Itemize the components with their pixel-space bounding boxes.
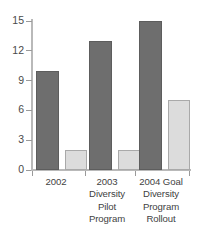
- y-axis-tick-label: 0: [0, 164, 24, 174]
- category-label-1: 2003DiversityPilotProgram: [79, 176, 135, 226]
- y-axis-tick-label: 3: [0, 134, 24, 144]
- category-label-line: 2003: [79, 176, 135, 188]
- y-axis-tick-label: 6: [0, 104, 24, 114]
- bar-series2-2: [168, 100, 190, 170]
- plot-area: [31, 21, 191, 170]
- bar-series2-0: [65, 150, 87, 170]
- category-label-2: 2004 GoalDiversityProgramRollout: [130, 176, 192, 226]
- bar-chart-figure: 03691215 20022003DiversityPilotProgram20…: [0, 0, 199, 240]
- category-label-line: Rollout: [130, 213, 192, 225]
- bar-series1-0: [36, 71, 59, 170]
- bar-series1-1: [89, 41, 112, 170]
- category-label-line: Program: [130, 201, 192, 213]
- bar-series1-2: [139, 21, 162, 170]
- category-label-line: Pilot: [79, 201, 135, 213]
- y-axis-tick-label: 12: [0, 45, 24, 55]
- y-axis-tick-label: 9: [0, 75, 24, 85]
- bar-series2-1: [118, 150, 140, 170]
- category-label-line: Diversity: [79, 188, 135, 200]
- category-label-line: 2004 Goal: [130, 176, 192, 188]
- category-label-line: 2002: [27, 176, 85, 188]
- category-label-0: 2002: [27, 176, 85, 188]
- y-axis-tick-label: 15: [0, 15, 24, 25]
- category-label-line: Program: [79, 213, 135, 225]
- category-label-line: Diversity: [130, 188, 192, 200]
